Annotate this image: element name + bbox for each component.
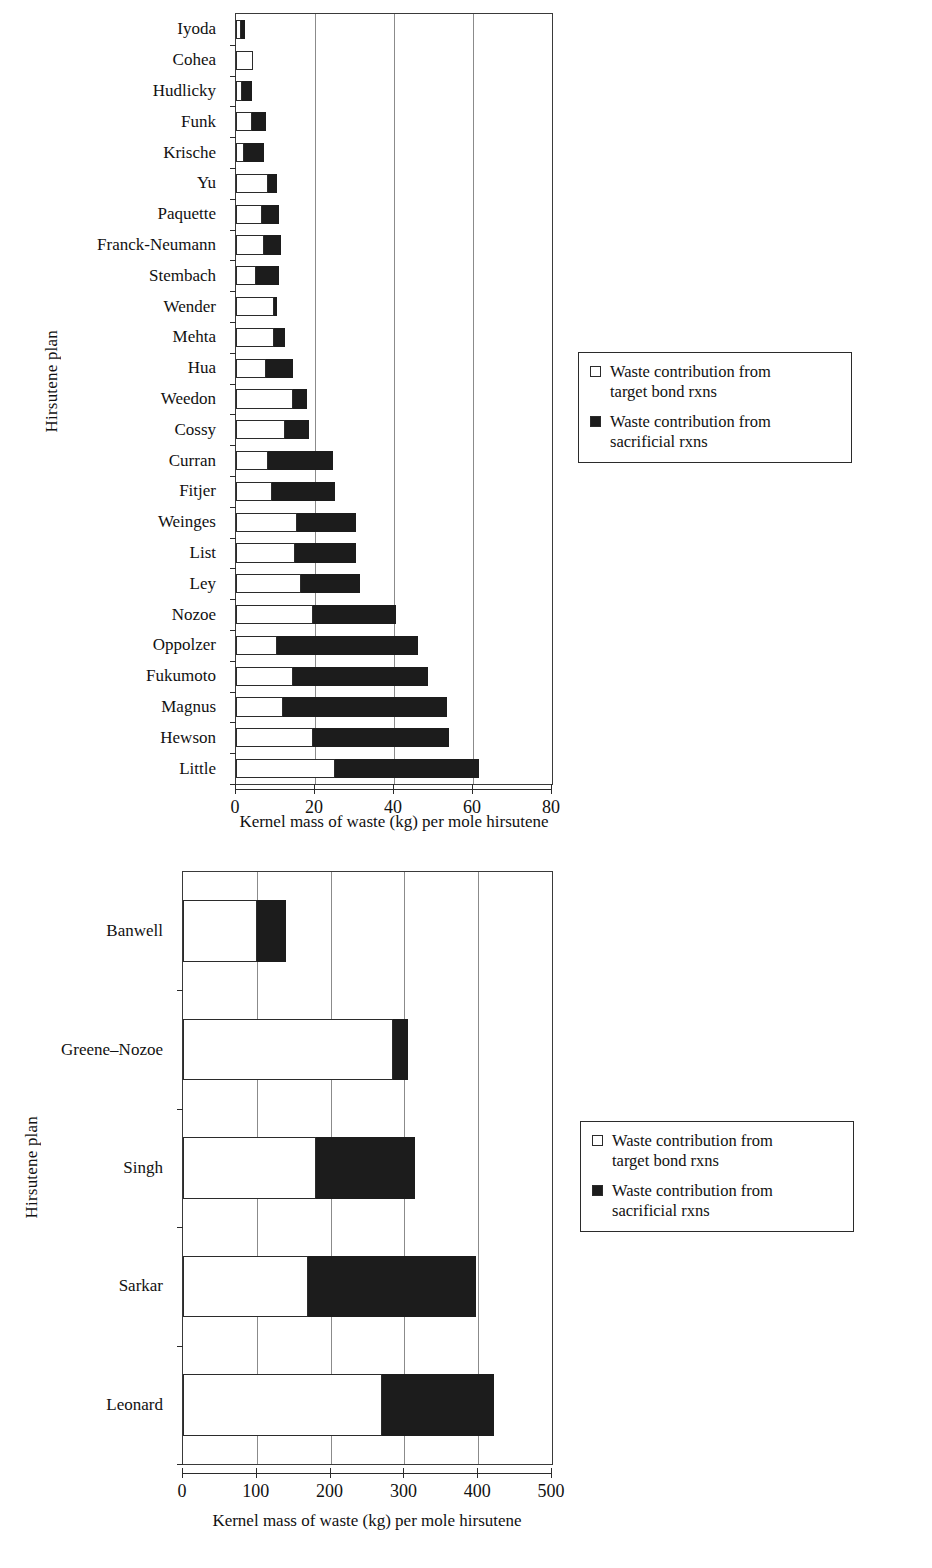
y-axis-tick [230,661,236,662]
x-axis-tick-label: 100 [242,1481,269,1502]
x-axis-tick-label: 0 [231,797,240,818]
category-label: Curran [169,452,216,469]
y-axis-tick [230,260,236,261]
bar-segment-target-bond [236,174,268,193]
bar-segment-target-bond [183,1374,382,1436]
bar-segment-sacrificial [293,667,427,686]
bar-segment-target-bond [183,1256,308,1318]
x-axis-tick-label: 0 [178,1481,187,1502]
y-axis-tick [177,1109,183,1110]
x-axis-tick-label: 200 [316,1481,343,1502]
bar-segment-sacrificial [297,513,356,532]
category-label: Hudlicky [153,82,216,99]
bar-cohea [236,51,253,70]
bar-segment-sacrificial [241,20,245,39]
bar-segment-sacrificial [285,420,309,439]
y-axis-tick [230,538,236,539]
empty-square-icon [592,1135,603,1146]
y-axis-tick [230,137,236,138]
y-axis-tick [177,1227,183,1228]
bar-banwell [183,900,286,962]
category-label: Weinges [158,513,216,530]
top-chart: Hirsutene plan IyodaCoheaHudlickyFunkKri… [0,0,932,850]
y-axis-tick [177,1464,183,1465]
bottom-chart-x-axis-title: Kernel mass of waste (kg) per mole hirsu… [167,1511,567,1531]
bar-segment-sacrificial [264,235,282,254]
bar-segment-sacrificial [252,112,266,131]
bar-oppolzer [236,636,418,655]
y-axis-tick [230,445,236,446]
bar-cossy [236,420,309,439]
bar-paquette [236,205,279,224]
top-chart-legend: Waste contribution from target bond rxns… [578,352,852,463]
y-axis-tick [230,692,236,693]
category-label: Iyoda [177,20,216,37]
bottom-chart: Hirsutene plan BanwellGreene–NozoeSinghS… [0,866,932,1568]
bar-curran [236,451,333,470]
bar-segment-target-bond [236,513,297,532]
bottom-chart-plot-area [182,871,553,1465]
bar-greene-nozoe [183,1019,408,1081]
bar-segment-target-bond [236,328,274,347]
bar-segment-sacrificial [268,451,333,470]
bar-segment-sacrificial [295,543,356,562]
category-label: Weedon [161,390,216,407]
bar-segment-target-bond [236,482,272,501]
filled-square-icon [592,1185,603,1196]
bar-segment-sacrificial [382,1374,494,1436]
x-axis-tick [551,1468,552,1478]
category-label: Cohea [173,51,216,68]
x-axis-tick [472,784,473,794]
y-axis-tick [230,476,236,477]
bar-little [236,759,479,778]
category-label: Hua [188,359,216,376]
y-axis-tick [230,753,236,754]
bar-mehta [236,328,285,347]
category-label: Sarkar [119,1277,163,1294]
y-axis-tick [177,1346,183,1347]
x-axis-tick [393,784,394,794]
bar-iyoda [236,20,245,39]
y-axis-tick [230,168,236,169]
empty-square-icon [590,366,601,377]
bar-segment-target-bond [236,543,295,562]
bar-segment-target-bond [236,143,244,162]
bar-segment-target-bond [236,235,264,254]
bar-segment-target-bond [236,266,256,285]
x-axis-tick [330,1468,331,1478]
bar-segment-sacrificial [244,143,264,162]
gridline [473,14,474,784]
y-axis-tick [230,599,236,600]
bar-segment-sacrificial [277,636,417,655]
category-label: Krische [163,144,216,161]
bar-sarkar [183,1256,476,1318]
top-chart-plot-area [235,13,553,785]
bar-segment-sacrificial [266,359,294,378]
bar-segment-target-bond [236,297,274,316]
x-axis-tick-label: 40 [384,797,402,818]
bar-hudlicky [236,81,252,100]
y-axis-tick [230,291,236,292]
y-axis-tick [177,990,183,991]
y-axis-tick [230,199,236,200]
bar-fitjer [236,482,335,501]
bar-segment-sacrificial [256,266,280,285]
category-label: Little [179,760,216,777]
bottom-chart-legend-label: Waste contribution from sacrificial rxns [612,1181,773,1221]
bar-krische [236,143,264,162]
y-axis-tick [230,45,236,46]
bar-segment-sacrificial [393,1019,408,1081]
category-label: Funk [181,113,216,130]
bar-weinges [236,513,356,532]
category-label: Nozoe [172,606,216,623]
x-axis-tick [235,784,236,794]
bar-segment-target-bond [236,728,313,747]
bar-segment-sacrificial [335,759,479,778]
bar-segment-sacrificial [272,482,335,501]
category-label: Banwell [106,922,163,939]
bar-segment-target-bond [236,389,293,408]
category-label: Hewson [160,729,216,746]
bar-segment-sacrificial [301,574,360,593]
y-axis-tick [230,414,236,415]
bar-hua [236,359,293,378]
